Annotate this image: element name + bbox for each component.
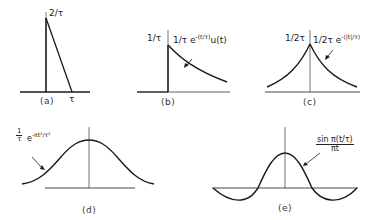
panel-e-curve-label: sin π(t/τ) πt — [316, 136, 354, 154]
panel-d-arrow — [32, 157, 42, 168]
panel-c-left-curve — [267, 44, 310, 87]
panel-b-peak-label: 1/τ — [147, 34, 161, 43]
panel-c-caption: (c) — [303, 98, 316, 107]
panel-b-curve-label-base: 1/τ e — [173, 35, 196, 45]
panel-e-label-den: πt — [316, 145, 354, 153]
panel-e-arrow — [306, 153, 320, 164]
panel-d-curve-label-exp: -πt²/τ² — [32, 131, 51, 138]
panel-c-curve-label-exp: -(|t|/τ) — [341, 33, 360, 40]
panel-c-peak-label: 1/2τ — [285, 34, 305, 43]
panel-a-ramp — [46, 18, 72, 92]
panel-a-plot — [20, 12, 90, 92]
panel-d-arrowhead — [40, 165, 45, 170]
panel-b-caption: (b) — [161, 98, 175, 107]
panel-a-peak-label: 2/τ — [49, 9, 63, 18]
panel-d-gaussian-curve — [22, 140, 154, 184]
panel-b-curve-label-exp: -(t/τ) — [196, 33, 211, 40]
panel-d-coef-den: τ — [16, 136, 22, 143]
panel-d-coefficient: 1 τ — [16, 128, 22, 144]
panel-a-caption: (a) — [40, 97, 54, 106]
panel-b-decay-curve — [168, 45, 227, 82]
panel-a-x-label: τ — [69, 95, 74, 104]
panel-e-caption: (e) — [278, 204, 292, 213]
panel-d-curve-label: e-πt²/τ² — [27, 132, 51, 143]
pulse-shapes-figure — [0, 0, 377, 220]
panel-b-curve-label-tail: u(t) — [210, 35, 226, 45]
panel-c-arrowhead — [325, 55, 330, 60]
panel-c-curve-label-base: 1/2τ e — [313, 35, 341, 45]
panel-d-caption: (d) — [82, 206, 96, 215]
panel-c-curve-label: 1/2τ e-(|t|/τ) — [313, 34, 360, 45]
panel-c-right-curve — [310, 44, 357, 87]
panel-b-curve-label: 1/τ e-(t/τ)u(t) — [173, 34, 227, 45]
